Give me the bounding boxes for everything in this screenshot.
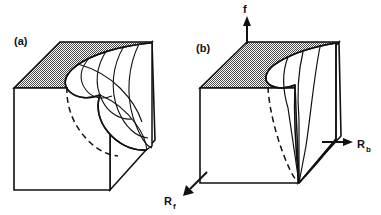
panel-b-box-front-face [200, 88, 298, 183]
axis-rb-label: R [357, 138, 365, 150]
axis-rf: R f [164, 172, 207, 211]
panel-a-label: (a) [14, 35, 28, 47]
axis-rb-subscript: b [366, 145, 371, 154]
panel-b: (b) [196, 42, 341, 183]
axis-rb-arrowhead [343, 138, 353, 146]
axis-f-label: f [243, 3, 247, 15]
panel-b-label: (b) [196, 42, 210, 54]
axis-rf-label: R [164, 195, 172, 207]
cusp-catastrophe-figure: (a) [0, 0, 381, 215]
panel-a-box-front-face [14, 88, 110, 190]
axis-f-arrowhead [243, 16, 251, 26]
axis-rf-subscript: f [173, 202, 176, 211]
panel-a: (a) [14, 35, 155, 190]
axis-f: f [243, 3, 251, 44]
figure-canvas: (a) [0, 0, 381, 215]
